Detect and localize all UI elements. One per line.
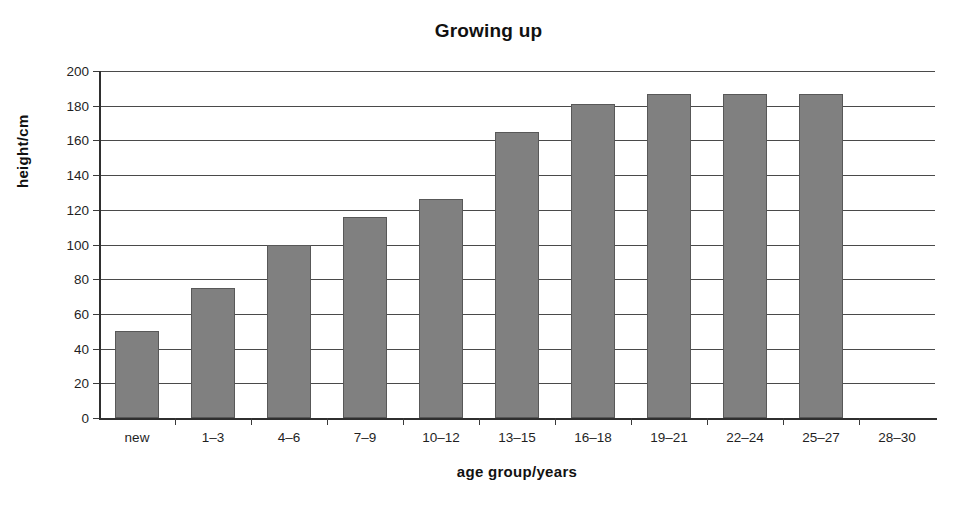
bar [191, 288, 235, 418]
bar [799, 94, 843, 418]
bar [723, 94, 767, 418]
x-axis-tick [403, 418, 404, 425]
y-axis-title: height/cm [14, 0, 31, 188]
x-axis-tick [859, 418, 860, 425]
y-axis-tick-label: 40 [45, 341, 89, 356]
y-axis-tick-label: 160 [45, 133, 89, 148]
x-axis-tick-label: 25–27 [783, 430, 859, 445]
y-axis-tick-label: 100 [45, 237, 89, 252]
bar [419, 199, 463, 418]
x-axis-tick-label: 10–12 [403, 430, 479, 445]
bar [647, 94, 691, 418]
y-axis-line [99, 71, 101, 419]
x-axis-tick-label: 7–9 [327, 430, 403, 445]
chart-title: Growing up [0, 20, 977, 42]
x-axis-tick [175, 418, 176, 425]
x-axis-tick-label: 4–6 [251, 430, 327, 445]
y-axis-tick-label: 200 [45, 64, 89, 79]
x-axis-tick-label: 22–24 [707, 430, 783, 445]
x-axis-tick [251, 418, 252, 425]
y-axis-tick-label: 180 [45, 98, 89, 113]
bar-chart: Growing up height/cm 0204060801001201401… [0, 0, 977, 510]
bar [115, 331, 159, 418]
x-axis-tick-label: 13–15 [479, 430, 555, 445]
y-axis-tick-label: 20 [45, 376, 89, 391]
x-axis-tick [555, 418, 556, 425]
gridline [99, 71, 935, 72]
x-axis-tick [479, 418, 480, 425]
x-axis-tick [707, 418, 708, 425]
y-axis-tick-label: 80 [45, 272, 89, 287]
y-axis-tick-label: 140 [45, 168, 89, 183]
y-axis-tick-label: 0 [45, 411, 89, 426]
bar [343, 217, 387, 418]
x-axis-tick [327, 418, 328, 425]
y-axis-tick-label: 120 [45, 202, 89, 217]
x-axis-tick-label: 16–18 [555, 430, 631, 445]
x-axis-tick-label: 19–21 [631, 430, 707, 445]
x-axis-tick [783, 418, 784, 425]
bar [571, 104, 615, 418]
y-axis-tick-label: 60 [45, 306, 89, 321]
x-axis-title: age group/years [99, 463, 935, 480]
bar [495, 132, 539, 418]
x-axis-tick-label: 28–30 [859, 430, 935, 445]
x-axis-line [99, 418, 937, 420]
x-axis-tick [631, 418, 632, 425]
plot-area [99, 71, 935, 418]
x-axis-tick-label: new [99, 430, 175, 445]
x-axis-tick-label: 1–3 [175, 430, 251, 445]
bar [267, 245, 311, 419]
